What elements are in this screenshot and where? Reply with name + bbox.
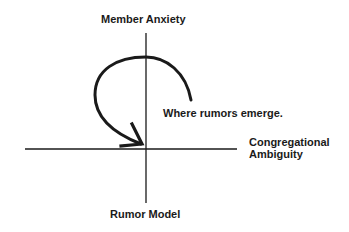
x-axis-label-line2: Ambiguity [249,148,330,160]
x-axis-label: Congregational Ambiguity [249,136,330,160]
rumor-curve-arrow [95,57,191,144]
x-axis-label-line1: Congregational [249,136,330,148]
y-axis-label: Member Anxiety [101,13,186,25]
annotation-label: Where rumors emerge. [163,107,283,119]
rumor-model-diagram: Member Anxiety Where rumors emerge. Cong… [0,0,349,232]
diagram-title: Rumor Model [110,208,180,220]
